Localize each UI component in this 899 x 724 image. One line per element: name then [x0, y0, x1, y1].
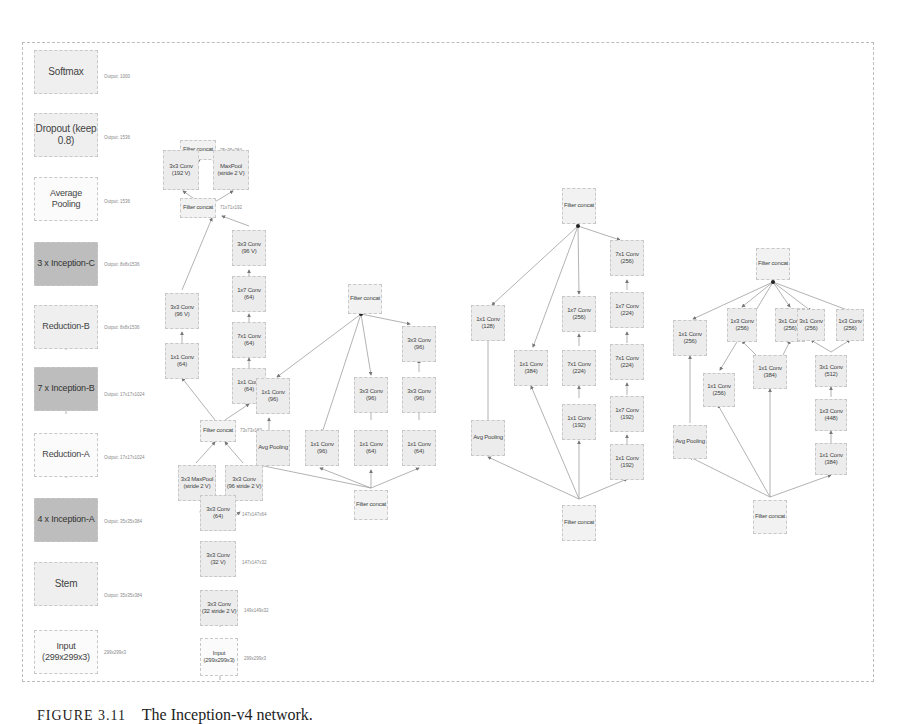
- node-label: 3x3 Conv (32 V): [206, 552, 230, 567]
- inception-b-filter-concat-bottom: Filter concat: [562, 505, 596, 541]
- node-label: 1x1 Conv (256): [707, 383, 731, 398]
- stem-filter-concat-2: Filter concat: [180, 198, 216, 218]
- inception-a-branch4-conv3x3: 3x3 Conv (96): [402, 377, 436, 413]
- inception-b-filter-concat-top: Filter concat: [562, 188, 596, 224]
- stem-conv-32-s2: 3x3 Conv (32 stride 2 V): [200, 590, 238, 626]
- node-label: Filter concat: [564, 519, 594, 527]
- output-label: Output: 1536: [104, 199, 130, 204]
- inception-c-branch4-conv3x1-512: 3x1 Conv (512): [815, 355, 847, 387]
- output-label: 147x147x64: [242, 512, 267, 517]
- stem-conv-192: 3x3 Conv (192 V): [163, 150, 199, 190]
- figure-number: FIGURE 3.11: [37, 708, 126, 723]
- inception-b-branch2-conv1x1: 1x1 Conv (384): [514, 350, 548, 386]
- node-inception-b-x7: 7 x Inception-B: [34, 367, 98, 411]
- node-label: Avg Pooling: [675, 438, 705, 446]
- node-inception-c-x3: 3 x Inception-C: [34, 242, 98, 286]
- node-label: 3x3 Conv (96 V): [170, 304, 194, 319]
- node-label: 3 x Inception-C: [37, 258, 95, 269]
- node-label: Filter concat: [183, 204, 213, 212]
- output-label: Output: 17x17x1024: [104, 392, 145, 397]
- output-label: Output: 1000: [104, 74, 130, 79]
- node-label: 1x3 Conv (256): [730, 318, 754, 333]
- node-label: Filter concat: [356, 501, 386, 509]
- node-label: 1x7 Conv (192): [615, 407, 639, 422]
- node-label: 3x3 Conv (96 V): [237, 241, 261, 256]
- node-label: 1x7 Conv (224): [615, 303, 639, 318]
- inception-a-filter-concat-top: Filter concat: [348, 284, 382, 314]
- node-label: Average Pooling: [35, 188, 97, 211]
- node-label: Softmax: [48, 66, 83, 79]
- node-label: Filter concat: [755, 513, 785, 521]
- inception-a-branch4-conv1x1: 1x1 Conv (64): [402, 430, 436, 466]
- stem-branch1-conv3x3: 3x3 Conv (96 V): [165, 293, 199, 329]
- node-label: 3x3 Conv (192 V): [169, 163, 193, 178]
- inception-a-branch3-conv3x3: 3x3 Conv (96): [354, 377, 388, 413]
- output-label: 71x71x192: [220, 205, 242, 210]
- node-label: 1x1 Conv (256): [678, 331, 702, 346]
- node-label: 7x1 Conv (224): [567, 361, 591, 376]
- node-label: Dropout (keep 0.8): [35, 123, 97, 148]
- output-label: Output: 17x17x1024: [104, 455, 145, 460]
- node-label: 1x1 Conv (96): [261, 389, 285, 404]
- node-label: Filter concat: [758, 260, 788, 268]
- stem-branch2-conv7x1: 7x1 Conv (64): [232, 322, 266, 358]
- inception-c-branch4-conv3x1: 3x1 Conv (256): [797, 309, 825, 341]
- inception-a-branch3-conv1x1: 1x1 Conv (64): [354, 430, 388, 466]
- inception-c-filter-concat-bottom: Filter concat: [753, 500, 787, 534]
- node-label: 1x7 Conv (64): [237, 287, 261, 302]
- inception-b-branch3-conv1x7: 1x7 Conv (256): [562, 296, 596, 332]
- node-label: 3x3 Conv (96): [407, 388, 431, 403]
- output-label: 299x299x3: [244, 656, 266, 661]
- node-label: 1x1 Conv (64): [359, 441, 383, 456]
- output-label: Output: 1536: [104, 135, 130, 140]
- output-label: 147x147x32: [242, 560, 267, 565]
- node-input: Input (299x299x3): [34, 630, 98, 674]
- figure-caption-text: The Inception-v4 network.: [142, 706, 313, 723]
- node-label: 3x3 Conv (32 stride 2 V): [202, 601, 237, 616]
- inception-c-branch1-avgpool: Avg Pooling: [673, 425, 707, 459]
- node-label: 3x1 Conv (512): [819, 364, 843, 379]
- node-label: 7x1 Conv (256): [615, 251, 639, 266]
- node-label: 1x1 Conv (96): [310, 441, 334, 456]
- node-reduction-a: Reduction-A: [34, 433, 98, 477]
- node-label: MaxPool (stride 2 V): [218, 163, 245, 178]
- node-label: 1x1 Conv (192): [567, 415, 591, 430]
- inception-c-branch4-conv1x1: 1x1 Conv (384): [815, 443, 847, 475]
- inception-a-branch4-conv3x3-top: 3x3 Conv (96): [402, 326, 436, 362]
- node-reduction-b: Reduction-B: [34, 305, 98, 349]
- node-label: 3x3 MaxPool (stride 2 V): [181, 476, 214, 491]
- node-label: 3x3 Conv (64): [206, 506, 230, 521]
- inception-a-filter-concat-bottom: Filter concat: [354, 490, 388, 520]
- node-label: 4 x Inception-A: [37, 514, 94, 525]
- inception-c-filter-concat-top: Filter concat: [756, 248, 790, 280]
- node-softmax: Softmax: [34, 50, 98, 94]
- node-label: 3x1 Conv (256): [799, 318, 823, 333]
- inception-b-branch4-conv1x7-b: 1x7 Conv (192): [610, 396, 644, 432]
- node-label: 1x1 Conv (64): [407, 441, 431, 456]
- node-label: 1x1 Conv (192): [615, 455, 639, 470]
- node-stem: Stem: [34, 562, 98, 606]
- inception-b-branch1-avgpool: Avg Pooling: [471, 420, 505, 456]
- output-label: Output: 35x35x384: [104, 593, 142, 598]
- stem-conv-64: 3x3 Conv (64): [200, 495, 236, 531]
- node-label: Input (299x299x3): [203, 650, 234, 665]
- node-label: 3x3 Conv (96): [359, 388, 383, 403]
- inception-c-branch4-conv1x3-448: 1x3 Conv (448): [815, 399, 847, 431]
- node-label: Filter concat: [564, 202, 594, 210]
- stem-branch1-conv1x1: 1x1 Conv (64): [165, 343, 199, 379]
- output-label: 299x299x3: [104, 650, 126, 655]
- node-label: 3x3 Conv (96 stride 2 V): [227, 476, 262, 491]
- output-label: Output: 8x8x1536: [104, 262, 140, 267]
- node-label: 1x1 Conv (384): [519, 361, 543, 376]
- output-label: Output: 35x35x384: [104, 519, 142, 524]
- node-label: 1x1 Conv (64): [170, 354, 194, 369]
- stem-conv-32-v: 3x3 Conv (32 V): [200, 541, 236, 577]
- node-average-pooling: Average Pooling: [34, 177, 98, 221]
- inception-c-branch3-conv1x3: 1x3 Conv (256): [727, 308, 757, 342]
- inception-c-branch1-conv1x1: 1x1 Conv (256): [673, 320, 707, 356]
- output-label: Output: 8x8x1536: [104, 325, 140, 330]
- node-label: Filter concat: [203, 427, 233, 435]
- node-label: 1x3 Conv (448): [819, 408, 843, 423]
- node-label: 1x1 Conv (384): [819, 452, 843, 467]
- node-label: 3x3 Conv (96): [407, 337, 431, 352]
